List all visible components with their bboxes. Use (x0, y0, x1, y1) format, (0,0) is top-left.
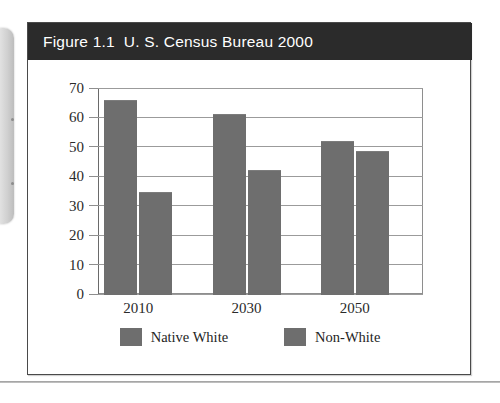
bar-non-white-2010 (139, 192, 172, 295)
legend-item-non-white: Non-White (284, 328, 380, 346)
figure-title: Figure 1.1 U. S. Census Bureau 2000 (28, 33, 313, 51)
book-binding-edge (0, 28, 14, 224)
x-axis-tick-label-2030: 2030 (232, 300, 262, 317)
y-axis-tick-label: 20 (40, 227, 84, 244)
y-axis-tick (89, 176, 98, 177)
y-axis-tick-label: 10 (40, 256, 84, 273)
chart-legend: Native WhiteNon-White (28, 328, 472, 346)
scanned-page: Figure 1.1 U. S. Census Bureau 2000 0102… (0, 0, 500, 403)
y-axis-tick (89, 294, 98, 295)
y-axis-tick (89, 117, 98, 118)
legend-swatch-icon (284, 328, 306, 346)
x-axis-tick-label-2050: 2050 (340, 300, 370, 317)
y-axis-tick-label: 30 (40, 197, 84, 214)
y-axis-tick (89, 205, 98, 206)
x-axis-tick-label-2010: 2010 (123, 300, 153, 317)
y-axis-tick (89, 264, 98, 265)
y-axis-tick-label: 60 (40, 109, 84, 126)
y-axis-tick-label: 50 (40, 138, 84, 155)
y-axis-tick-label: 40 (40, 168, 84, 185)
legend-swatch-icon (120, 328, 142, 346)
gridline (98, 146, 423, 147)
bar-native-white-2050 (321, 141, 354, 295)
bar-native-white-2010 (104, 100, 137, 295)
y-axis-tick (89, 146, 98, 147)
figure-container: Figure 1.1 U. S. Census Bureau 2000 0102… (27, 22, 471, 375)
figure-title-bar: Figure 1.1 U. S. Census Bureau 2000 (28, 23, 472, 60)
y-axis-tick (89, 88, 98, 89)
y-axis-tick (89, 235, 98, 236)
bar-non-white-2050 (356, 151, 389, 295)
legend-label: Non-White (315, 329, 380, 346)
scan-speck (11, 182, 14, 185)
bar-chart: 010203040506070 201020302050 Native Whit… (28, 60, 472, 375)
bar-native-white-2030 (213, 114, 246, 295)
y-axis-tick-label: 70 (40, 80, 84, 97)
legend-item-native-white: Native White (120, 328, 228, 346)
y-axis-tick-label: 0 (40, 286, 84, 303)
page-edge-rule (0, 381, 500, 383)
gridline (98, 88, 423, 89)
gridline (98, 117, 423, 118)
scan-speck (11, 118, 14, 121)
legend-label: Native White (151, 329, 228, 346)
bar-non-white-2030 (248, 170, 281, 295)
